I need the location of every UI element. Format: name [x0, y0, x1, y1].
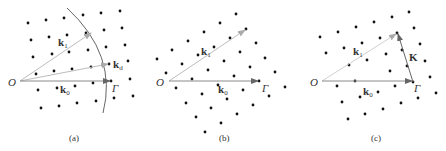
- panel-c: O Γ k1 k0 K (c): [310, 11, 437, 143]
- gamma-label: Γ: [261, 82, 269, 94]
- K-label: K: [409, 51, 418, 63]
- caption-b: (b): [219, 133, 230, 143]
- lattice-dots-b: [156, 13, 287, 134]
- k1-label: k1: [201, 45, 211, 59]
- origin-label: O: [310, 76, 318, 88]
- caption-a: (a): [69, 133, 79, 143]
- lattice-dots-c: [319, 11, 438, 121]
- k1-label: k1: [353, 45, 363, 59]
- k0-label: k0: [60, 83, 70, 97]
- diagram-canvas: O Γ k1 kd k0 (a) O Γ k1: [0, 0, 446, 151]
- origin-label: O: [156, 76, 164, 88]
- k0-label: k0: [218, 83, 228, 97]
- ewald-sphere-arc: [67, 8, 106, 113]
- panel-b: O Γ k1 k0 (b): [156, 13, 287, 143]
- gamma-label: Γ: [111, 82, 119, 94]
- kd-label: kd: [113, 58, 123, 72]
- k0-label: k0: [363, 85, 373, 99]
- panel-a: O Γ k1 kd k0 (a): [8, 8, 134, 143]
- caption-c: (c): [371, 133, 381, 143]
- k1-label: k1: [58, 36, 68, 50]
- gamma-label: Γ: [413, 82, 421, 94]
- origin-label: O: [8, 76, 16, 88]
